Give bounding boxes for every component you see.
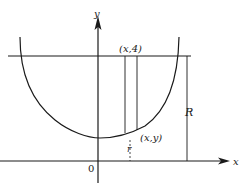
curve-point-label: (x,y) [140, 132, 162, 143]
origin-label: 0 [88, 163, 94, 174]
diagram-canvas: y x 0 (x,4) (x,y) r R [0, 0, 249, 192]
large-radius-label: R [184, 106, 193, 119]
small-radius-label: r [127, 144, 132, 154]
y-axis-label: y [93, 8, 100, 19]
top-point-label: (x,4) [119, 43, 142, 54]
u-curve [20, 37, 179, 138]
x-axis-label: x [233, 156, 239, 167]
